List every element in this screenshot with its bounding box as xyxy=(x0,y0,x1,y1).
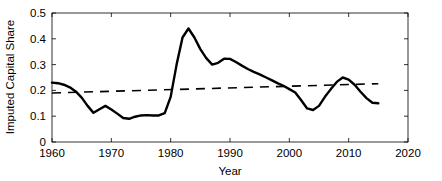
y-tick-label: 0 xyxy=(40,136,46,148)
figure-container: 1960197019801990200020102020 00.10.20.30… xyxy=(0,0,442,181)
y-tick-label: 0.1 xyxy=(30,110,46,122)
axes-frame xyxy=(52,13,408,142)
x-tick-label: 1980 xyxy=(158,147,184,159)
y-tick-label: 0.2 xyxy=(30,84,46,96)
imputed-capital-share-chart: 1960197019801990200020102020 00.10.20.30… xyxy=(0,0,442,181)
x-tick-label: 1990 xyxy=(217,147,243,159)
y-tick-label: 0.3 xyxy=(30,59,46,71)
x-tick-label: 2020 xyxy=(395,147,421,159)
x-tick-label: 2000 xyxy=(277,147,303,159)
x-tick-label: 1970 xyxy=(99,147,125,159)
x-axis-title: Year xyxy=(218,165,241,177)
x-axis-tick-labels: 1960197019801990200020102020 xyxy=(39,147,421,159)
x-axis-tick-marks xyxy=(52,13,408,142)
x-tick-label: 2010 xyxy=(336,147,362,159)
y-tick-label: 0.5 xyxy=(30,7,46,19)
y-axis-tick-labels: 00.10.20.30.40.5 xyxy=(30,7,47,148)
y-axis-tick-marks xyxy=(52,13,408,142)
y-tick-label: 0.4 xyxy=(30,33,47,45)
y-axis-title: Imputed Capital Share xyxy=(4,20,16,134)
x-tick-label: 1960 xyxy=(39,147,65,159)
imputed-capital-share-series xyxy=(52,28,378,118)
